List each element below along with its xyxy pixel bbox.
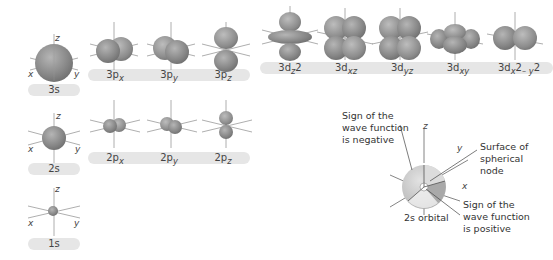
label-3px: 3px <box>88 69 142 84</box>
label-3dyz: 3dyz <box>374 62 430 77</box>
orbital-3dyz-icon <box>370 0 430 62</box>
annotation-node: Surface of spherical node <box>480 141 528 177</box>
orbital-3dx2y2-icon <box>485 0 545 62</box>
orbital-1s-icon <box>0 180 90 240</box>
annotation-positive: Sign of the wave function is positive <box>463 199 530 235</box>
axis-x-label-1s: x <box>28 219 33 228</box>
label-3dxy: 3dxy <box>430 62 486 77</box>
orbital-3dz2-icon <box>260 0 320 62</box>
label-2py: 2py <box>142 152 196 167</box>
label-3pz: 3pz <box>196 69 250 84</box>
orbital-3dxz-icon <box>315 0 375 62</box>
orbital-2py-icon <box>145 100 205 150</box>
label-3s: 3s <box>28 84 80 96</box>
axis-z-label-1s: z <box>55 185 60 194</box>
annotation-negative: Sign of the wave function is negative <box>342 110 409 146</box>
label-2s: 2s <box>28 163 80 175</box>
label-3dxz: 3dxz <box>318 62 374 77</box>
orbital-2pz-icon <box>200 100 260 150</box>
axis-y-label-cutaway: y <box>457 144 462 153</box>
label-1s: 1s <box>28 238 80 250</box>
axis-y-label-3s: y <box>74 70 79 79</box>
label-3py: 3py <box>142 69 196 84</box>
axis-y-label-1s: y <box>74 219 79 228</box>
axis-z-label-cutaway: z <box>423 122 428 131</box>
label-2pz: 2pz <box>196 152 250 167</box>
orbital-3dxy-icon <box>425 0 485 62</box>
orbital-2px-icon <box>88 100 148 150</box>
axis-x-label-3s: x <box>28 70 33 79</box>
axis-x-label-2s: x <box>28 145 33 154</box>
label-3dx2y2: 3dx2– y2 <box>486 62 552 77</box>
axis-x-label-cutaway: x <box>462 182 467 191</box>
label-2px: 2px <box>88 152 142 167</box>
axis-z-label-3s: z <box>55 34 60 43</box>
axis-z-label-2s: z <box>56 112 61 121</box>
cutaway-caption: 2s orbital <box>404 212 449 224</box>
axis-y-label-2s: y <box>75 145 80 154</box>
label-3dz2: 3dz2 <box>262 62 318 77</box>
